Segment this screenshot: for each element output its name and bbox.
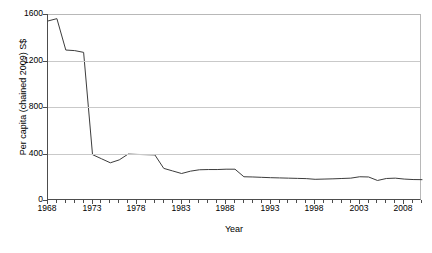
x-axis-tick-label: 1983 xyxy=(161,203,201,213)
gridline xyxy=(48,61,420,62)
x-axis-title: Year xyxy=(47,224,421,234)
gridline xyxy=(48,154,420,155)
x-axis-tick-labels: 196819731978198319881993199820032008 xyxy=(47,203,421,217)
gridline xyxy=(48,107,420,108)
y-axis-tick-mark xyxy=(43,200,47,201)
y-axis-title: Per capita (chained 2009) S$ xyxy=(18,12,28,182)
y-axis-tick-mark xyxy=(43,14,47,15)
plot-area xyxy=(47,14,421,200)
y-axis-tick-mark xyxy=(43,154,47,155)
y-axis-tick-mark xyxy=(43,61,47,62)
gridline xyxy=(48,14,420,15)
x-axis-tick-label: 1978 xyxy=(116,203,156,213)
x-axis-tick-label: 1993 xyxy=(250,203,290,213)
chart-title-cropped xyxy=(0,0,432,7)
y-axis-tick-mark xyxy=(43,107,47,108)
x-axis-tick-label: 1968 xyxy=(27,203,67,213)
x-axis-tick-label: 1998 xyxy=(294,203,334,213)
series-line-per-capita xyxy=(48,19,422,181)
x-axis-tick-label: 2008 xyxy=(383,203,423,213)
x-axis-tick-label: 2003 xyxy=(339,203,379,213)
x-axis-tick-label: 1988 xyxy=(205,203,245,213)
line-chart: 040080012001600 Per capita (chained 2009… xyxy=(0,0,432,253)
x-axis-tick-label: 1973 xyxy=(72,203,112,213)
